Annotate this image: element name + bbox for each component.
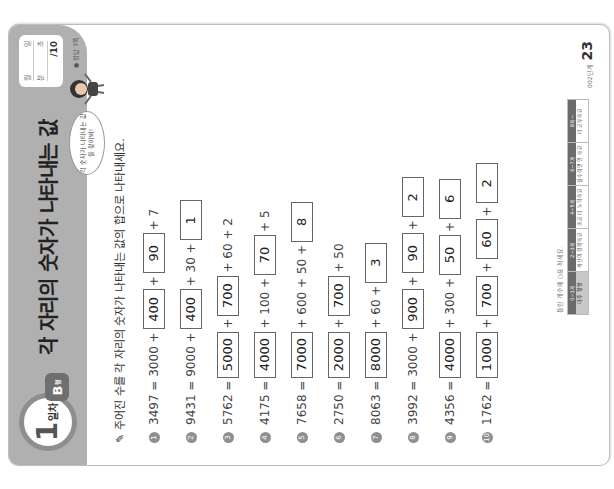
equation-text: + [480, 319, 494, 329]
answer-reference: ● 정답 7쪽 [71, 37, 80, 68]
equation-text: 3497 = 3000 + [147, 332, 161, 425]
problem-row: 13497 = 3000 +400+90+ 7 [137, 161, 171, 443]
self-check-cell[interactable]: 0~1개아주 잘함 [567, 271, 589, 315]
day-number: 1 [34, 422, 62, 441]
answer-box[interactable]: 90 [402, 233, 424, 273]
problem-number: 3 [223, 432, 234, 443]
equation-text: + 60 + 2 [221, 218, 235, 272]
problem-row: 101762 =1000+700+60+2 [470, 161, 504, 443]
self-check-head: 6~7개 [568, 143, 576, 185]
month-label: 월 [22, 75, 32, 81]
equation-text: 7658 = [295, 381, 309, 425]
equation-text: + 5 [258, 210, 272, 232]
instruction-text: 주어진 수를 각 자리의 숫자가 나타내는 값의 합으로 나타내세요. [114, 138, 127, 429]
equation-text: + [480, 262, 494, 272]
self-check-table: 0~1개아주 잘함2~3개계산이 정확해요4~5개조금 더 노력해요6~7개실수… [567, 99, 589, 315]
problem-row: 44175 =4000+ 100 +70+ 5 [248, 161, 282, 443]
instruction: ✎주어진 수를 각 자리의 숫자가 나타내는 값의 합으로 나타내세요. [111, 138, 127, 443]
answer-box[interactable]: 8000 [365, 332, 387, 378]
self-check-cell[interactable]: 6~7개실수하면 안 돼요 [567, 142, 589, 185]
score-total: /10 [49, 41, 59, 57]
self-check-head: 2~3개 [568, 229, 576, 271]
problem-row: 35762 =5000+700+ 60 + 2 [211, 161, 245, 443]
answer-box[interactable]: 1000 [476, 332, 498, 378]
problem-number: 8 [408, 432, 419, 443]
answer-box[interactable]: 700 [476, 276, 498, 316]
answer-box[interactable]: 700 [217, 276, 239, 316]
page-code: 002단계 [586, 64, 593, 87]
answer-box[interactable]: 3 [365, 243, 387, 283]
problem-row: 83992 = 3000 +900+90+2 [396, 161, 430, 443]
self-check-cell[interactable]: 2~3개계산이 정확해요 [567, 228, 589, 271]
answer-box[interactable]: 400 [180, 289, 202, 329]
page-number: 23 [579, 41, 595, 60]
answer-box[interactable]: 90 [143, 233, 165, 273]
problem-number: 4 [260, 432, 271, 443]
equation-text: + [443, 222, 457, 232]
worksheet-page: 1 일차 B형 각 자리의 숫자가 나타내는 값 각 숫자가 나타내는 값을 찾… [8, 24, 610, 466]
type-tab: B형 [45, 373, 69, 401]
equation-text: + [147, 276, 161, 286]
problem-row: 78063 =8000+ 60 +3 [359, 161, 393, 443]
type-suffix: 형 [53, 379, 62, 385]
equation-text: + 60 + [369, 286, 383, 329]
equation-text: 4356 = [443, 381, 457, 425]
problem-row: 57658 =7000+ 600 + 50 +8 [285, 161, 319, 443]
character-illustration-icon [65, 69, 105, 109]
self-check-body: 계산이 정확해요 [576, 229, 588, 271]
answer-box[interactable]: 8 [291, 202, 313, 242]
equation-text: + 7 [147, 209, 161, 231]
page-number-area: 002단계23 [579, 41, 595, 88]
self-check-body: 더 공부해요 [576, 100, 588, 142]
problem-number: 1 [149, 432, 160, 443]
type-letter: B [50, 386, 65, 396]
answer-box[interactable]: 7000 [291, 332, 313, 378]
equation-text: + 300 + [443, 278, 457, 329]
answer-box[interactable]: 2 [402, 177, 424, 217]
equation-text: + 600 + 50 + [295, 245, 309, 329]
self-check-cell[interactable]: 8개~더 공부해요 [567, 99, 589, 142]
equation-text: 3992 = 3000 + [406, 332, 420, 425]
answer-box[interactable]: 70 [254, 235, 276, 275]
second-label: 초 [35, 41, 45, 47]
answer-box[interactable]: 5000 [217, 332, 239, 378]
equation-text: 4175 = [258, 381, 272, 425]
self-check-caption: 틀린 개수에 ○표 하세요. [555, 246, 564, 313]
self-check-body: 아주 잘함 [576, 272, 588, 314]
answer-box[interactable]: 4000 [439, 332, 461, 378]
self-check-body: 조금 더 노력해요 [576, 186, 588, 228]
self-check-body: 실수하면 안 돼요 [576, 143, 588, 185]
self-check-head: 8개~ [568, 100, 576, 142]
answer-box[interactable]: 2 [476, 163, 498, 203]
equation-text: + [221, 319, 235, 329]
equation-text: + [480, 206, 494, 216]
answer-box[interactable]: 6 [439, 179, 461, 219]
self-check-cell[interactable]: 4~5개조금 더 노력해요 [567, 185, 589, 228]
equation-text: + [406, 220, 420, 230]
problem-number: 6 [334, 432, 345, 443]
problem-row: 94356 =4000+ 300 +50+6 [433, 161, 467, 443]
answer-box[interactable]: 1 [180, 200, 202, 240]
problem-row: 62750 =2000+700+ 50 [322, 161, 356, 443]
problem-number: 9 [445, 432, 456, 443]
problem-number: 7 [371, 432, 382, 443]
speech-bubble: 각 숫자가 나타내는 값을 찾아봐! [69, 111, 105, 175]
score-box: 월일 분초 /10 [19, 35, 63, 87]
equation-text: 8063 = [369, 381, 383, 425]
answer-box[interactable]: 4000 [254, 332, 276, 378]
day-badge: 1 일차 [19, 393, 77, 451]
problem-row: 29431 = 9000 +400+ 30 +1 [174, 161, 208, 443]
equation-text: + 100 + [258, 278, 272, 329]
minute-label: 분 [35, 75, 45, 81]
equation-text: + 30 + [184, 243, 198, 286]
answer-box[interactable]: 400 [143, 289, 165, 329]
answer-box[interactable]: 700 [328, 276, 350, 316]
pencil-icon: ✎ [114, 434, 127, 443]
equation-text: 9431 = 9000 + [184, 332, 198, 425]
answer-box[interactable]: 60 [476, 219, 498, 259]
answer-box[interactable]: 2000 [328, 332, 350, 378]
day-label: 일 [22, 41, 32, 47]
answer-box[interactable]: 50 [439, 235, 461, 275]
equation-text: 5762 = [221, 381, 235, 425]
answer-box[interactable]: 900 [402, 289, 424, 329]
